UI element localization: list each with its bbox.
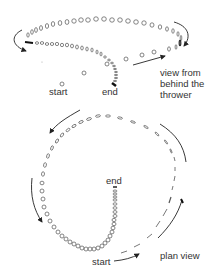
throw-path-diagram: start end view from behind the thrower e…: [0, 0, 217, 279]
top-view-caption-line-2: behind the: [160, 78, 204, 89]
plan-view-path-left: [40, 132, 64, 223]
top-view-caption-line-3: thrower: [160, 89, 192, 100]
plan-view-caption: plan view: [160, 250, 200, 261]
plan-view-path-bottom: [52, 187, 117, 251]
plan-view-start-label: start: [92, 256, 110, 267]
top-view-path-upper: [27, 17, 182, 41]
top-view-end-label: end: [102, 86, 118, 97]
plan-view-path-right: [121, 157, 175, 253]
top-view-path-lower: [25, 42, 118, 86]
top-view-caption-line-1: view from: [160, 67, 201, 78]
diagram-drawing: [0, 0, 217, 279]
plan-view-path-upper: [66, 114, 173, 153]
plan-view-end-label: end: [106, 175, 122, 186]
top-view-start-label: start: [49, 86, 67, 97]
